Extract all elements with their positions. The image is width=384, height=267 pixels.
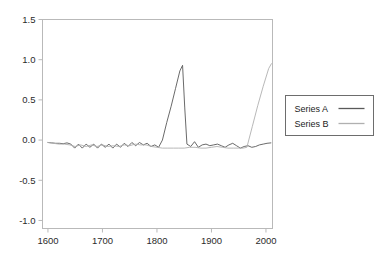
legend-label-1: Series A [295, 104, 329, 114]
chart-legend: Series ASeries B [286, 96, 374, 136]
y-tick-label: 0.0 [22, 134, 35, 145]
line-chart: 1.51.00.50.0-0.5-1.016001700180019002000… [0, 0, 384, 267]
series-line-series-b [48, 64, 271, 148]
y-tick-label: -0.5 [19, 175, 35, 186]
series-layer [48, 64, 271, 148]
y-tick-label: 1.0 [22, 54, 35, 65]
legend-box [286, 96, 374, 136]
x-tick-label: 2000 [255, 235, 276, 246]
series-line-series-a [48, 65, 271, 148]
y-tick-label: -1.0 [19, 215, 35, 226]
y-tick-label: 1.5 [22, 14, 35, 25]
plot-frame [43, 20, 273, 229]
x-tick-label: 1600 [37, 235, 58, 246]
axis-layer: 1.51.00.50.0-0.5-1.016001700180019002000 [19, 14, 276, 246]
x-tick-label: 1700 [92, 235, 113, 246]
x-tick-label: 1900 [201, 235, 222, 246]
chart-figure: 1.51.00.50.0-0.5-1.016001700180019002000… [0, 0, 384, 267]
y-tick-label: 0.5 [22, 94, 35, 105]
x-tick-label: 1800 [146, 235, 167, 246]
legend-label-2: Series B [295, 119, 329, 129]
